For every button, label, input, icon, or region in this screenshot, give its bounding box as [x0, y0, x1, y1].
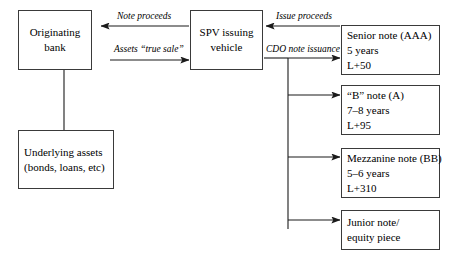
- edge-label-cdo-note-issuance: CDO note issuance: [266, 44, 340, 55]
- cdo-structure-diagram: Originating bank Underlying assets (bond…: [0, 0, 458, 260]
- node-b-note-line-2: 7–8 years: [347, 103, 439, 118]
- node-originating-bank: Originating bank: [18, 10, 92, 70]
- node-underlying-assets-line-2: (bonds, loans, etc): [24, 160, 113, 175]
- node-senior-note: Senior note (AAA) 5 years L+50: [341, 25, 440, 75]
- node-mezzanine-note-line-1: Mezzanine note (BB): [347, 151, 439, 166]
- node-b-note: “B” note (A) 7–8 years L+95: [341, 85, 440, 135]
- node-senior-note-line-1: Senior note (AAA): [347, 28, 439, 43]
- node-underlying-assets: Underlying assets (bonds, loans, etc): [18, 130, 114, 189]
- node-b-note-line-1: “B” note (A): [347, 88, 439, 103]
- node-mezzanine-note-line-3: L+310: [347, 181, 439, 196]
- node-junior-note-line-1: Junior note/: [347, 215, 439, 230]
- edge-label-assets-true-sale: Assets “true sale”: [114, 44, 184, 55]
- node-senior-note-line-2: 5 years: [347, 43, 439, 58]
- node-originating-bank-line-1: Originating: [30, 25, 81, 40]
- node-senior-note-line-3: L+50: [347, 58, 439, 73]
- node-spv-issuing-vehicle: SPV issuing vehicle: [190, 10, 263, 70]
- edge-label-issue-proceeds: Issue proceeds: [276, 11, 332, 22]
- node-b-note-line-3: L+95: [347, 118, 439, 133]
- node-spv-line-1: SPV issuing: [200, 25, 254, 40]
- node-mezzanine-note: Mezzanine note (BB) 5–6 years L+310: [341, 148, 440, 198]
- edge-label-note-proceeds: Note proceeds: [117, 11, 171, 22]
- node-underlying-assets-line-1: Underlying assets: [24, 145, 113, 160]
- node-junior-note: Junior note/ equity piece: [341, 210, 440, 250]
- node-spv-line-2: vehicle: [211, 40, 243, 55]
- node-junior-note-line-2: equity piece: [347, 230, 439, 245]
- node-mezzanine-note-line-2: 5–6 years: [347, 166, 439, 181]
- node-originating-bank-line-2: bank: [44, 40, 65, 55]
